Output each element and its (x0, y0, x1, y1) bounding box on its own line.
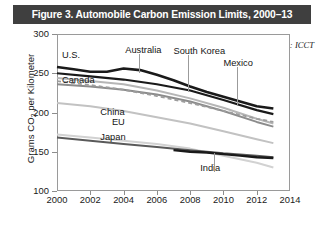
series-label-china: China (100, 107, 124, 117)
y-tick-mark-100 (52, 191, 57, 192)
y-tick-label-200: 200 (15, 107, 49, 118)
leader-line-south-korea (188, 55, 189, 92)
x-tick-mark-2010 (223, 191, 224, 195)
x-tick-mark-2008 (190, 191, 191, 195)
x-tick-mark-2006 (157, 191, 158, 195)
x-tick-mark-2004 (124, 191, 125, 195)
leader-line-mexico (237, 67, 238, 106)
leader-line-india (214, 153, 215, 172)
series-line-u-s (57, 67, 273, 109)
y-tick-label-250: 250 (15, 67, 49, 78)
leader-line-australia (139, 54, 140, 73)
x-tick-mark-2002 (90, 191, 91, 195)
y-tick-label-300: 300 (15, 28, 49, 39)
series-line-eu (57, 134, 273, 167)
series-line-india (174, 150, 274, 158)
series-lines (57, 34, 290, 191)
plot-area (57, 34, 290, 191)
x-tick-mark-2012 (257, 191, 258, 195)
y-tick-label-150: 150 (15, 146, 49, 157)
figure-title-band: Figure 3. Automobile Carbon Emission Lim… (13, 5, 311, 24)
x-tick-label-2014: 2014 (270, 194, 310, 205)
series-label-canada: Canada (62, 75, 95, 85)
series-label-u-s: U.S. (62, 50, 80, 60)
y-axis-title-suffix: per Kilometer (25, 54, 36, 114)
series-line-japan (57, 138, 273, 158)
series-label-india: India (200, 163, 220, 173)
figure-container: Figure 3. Automobile Carbon Emission Lim… (0, 0, 324, 226)
series-label-south-korea: South Korea (174, 46, 226, 56)
figure-title: Figure 3. Automobile Carbon Emission Lim… (32, 9, 293, 20)
series-label-japan: Japan (100, 132, 125, 142)
series-label-eu: EU (112, 117, 125, 127)
series-label-australia: Australia (125, 45, 161, 55)
